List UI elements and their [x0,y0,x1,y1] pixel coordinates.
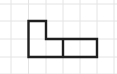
grid-lines [0,0,117,74]
grid-diagram [0,0,117,74]
